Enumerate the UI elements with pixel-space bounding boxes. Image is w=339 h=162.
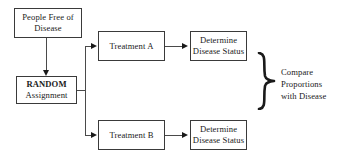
arrow-right-icon bbox=[91, 132, 97, 138]
edge-treatment-a-to-status-a bbox=[165, 46, 183, 47]
node-line: Disease bbox=[34, 23, 61, 34]
node-line: Treatment A bbox=[110, 41, 154, 52]
node-line: Determine bbox=[200, 124, 237, 135]
node-random-assignment: RANDOM Assignment bbox=[16, 76, 77, 104]
flowchart-diagram: People Free of Disease RANDOM Assignment… bbox=[0, 0, 339, 162]
arrow-right-icon bbox=[91, 43, 97, 49]
node-treatment-b: Treatment B bbox=[98, 120, 165, 150]
arrow-right-icon bbox=[182, 132, 188, 138]
node-determine-disease-status-a: Determine Disease Status bbox=[190, 31, 247, 61]
node-determine-disease-status-b: Determine Disease Status bbox=[190, 120, 247, 150]
edge-source-to-random bbox=[46, 38, 47, 71]
node-line: RANDOM bbox=[26, 79, 66, 90]
node-people-free-of-disease: People Free of Disease bbox=[14, 8, 82, 38]
node-treatment-a: Treatment A bbox=[98, 31, 165, 61]
node-line: Assignment bbox=[25, 90, 67, 101]
compare-proportions-label: Compare Proportions with Disease bbox=[281, 66, 326, 103]
node-line: Disease Status bbox=[193, 46, 244, 57]
compare-label-line: with Disease bbox=[281, 90, 326, 102]
compare-label-line: Proportions bbox=[281, 78, 326, 90]
compare-label-line: Compare bbox=[281, 66, 326, 78]
curly-brace-icon bbox=[254, 52, 278, 110]
edge-treatment-b-to-status-b bbox=[165, 135, 183, 136]
node-line: Determine bbox=[200, 35, 237, 46]
node-line: Disease Status bbox=[193, 135, 244, 146]
node-line: People Free of bbox=[22, 12, 74, 23]
edge-split-bus bbox=[85, 46, 86, 136]
arrow-right-icon bbox=[182, 43, 188, 49]
node-line: Treatment B bbox=[110, 130, 154, 141]
